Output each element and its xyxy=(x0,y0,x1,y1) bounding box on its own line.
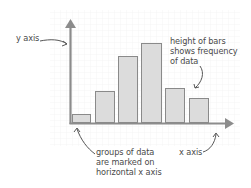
x-axis-label: x axis xyxy=(179,147,202,157)
bar-2 xyxy=(96,92,115,123)
bar-6 xyxy=(190,99,209,123)
bar-4 xyxy=(142,44,162,123)
bars-note-line-1: height of bars xyxy=(170,36,238,46)
groups-note-line-2: are marked on xyxy=(96,157,162,167)
bar-1 xyxy=(73,115,91,123)
y-axis-label: y axis xyxy=(16,33,39,43)
groups-note-line-3: horizontal x axis xyxy=(96,167,162,177)
groups-note: groups of data are marked on horizontal … xyxy=(96,147,162,177)
bar-chart-diagram: y axis height of bars shows frequency of… xyxy=(0,0,251,188)
bar-5 xyxy=(166,89,185,123)
bar-3 xyxy=(119,57,138,123)
bars-note-line-2: shows frequency xyxy=(170,46,238,56)
groups-note-line-1: groups of data xyxy=(96,147,162,157)
bars-note-line-3: of data xyxy=(170,56,238,66)
bars-note: height of bars shows frequency of data xyxy=(170,36,238,66)
